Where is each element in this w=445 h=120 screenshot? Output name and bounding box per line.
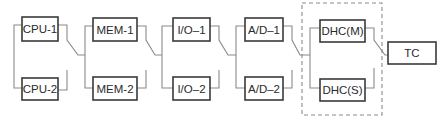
dhc-m-label: DHC(M): [321, 25, 363, 37]
ad-2-box: A/D–2: [245, 77, 283, 100]
redundancy-diagram: CPU-1 CPU-2 MEM-1 MEM-2 I/O–1 I/O–2: [0, 0, 445, 120]
cpu-input-bus: [14, 25, 22, 88]
stage-mem: MEM-1 MEM-2: [85, 18, 162, 100]
ad-2-label: A/D–2: [248, 83, 280, 95]
tc-box: TC: [388, 42, 436, 64]
mem-1-label: MEM-1: [96, 24, 133, 36]
mem1-output-switch: [137, 26, 162, 55]
dhc-m-box: DHC(M): [320, 20, 365, 42]
ad1-output-switch: [283, 26, 310, 55]
mem2-output-stub: [137, 70, 146, 88]
mem-2-label: MEM-2: [96, 83, 133, 95]
ad2-output-stub: [283, 70, 292, 88]
cpu-1-box: CPU-1: [22, 17, 58, 41]
io-2-label: I/O–2: [177, 83, 205, 95]
io2-output-stub: [210, 70, 219, 88]
dhc-s-label: DHC(S): [322, 84, 362, 96]
cpu2-output-stub: [58, 70, 67, 90]
cpu-2-box: CPU-2: [22, 78, 58, 100]
io-2-box: I/O–2: [173, 77, 210, 100]
io1-output-switch: [210, 26, 236, 55]
tc-label: TC: [404, 47, 419, 59]
dhc-input-bus: [310, 28, 320, 88]
cpu-2-label: CPU-2: [23, 83, 58, 95]
stage-io: I/O–1 I/O–2: [162, 18, 236, 100]
dhcs-output-stub: [365, 68, 374, 88]
stage-ad: A/D–1 A/D–2: [236, 18, 310, 100]
dhc-s-box: DHC(S): [320, 79, 365, 101]
io-input-bus: [162, 26, 173, 88]
stage-cpu: CPU-1 CPU-2: [14, 17, 85, 100]
ad-1-label: A/D–1: [248, 24, 280, 36]
cpu-1-label: CPU-1: [23, 23, 58, 35]
cpu1-output-switch: [58, 25, 85, 55]
ad-1-box: A/D–1: [245, 18, 283, 41]
stage-dhc: DHC(M) DHC(S): [310, 20, 388, 101]
ad-input-bus: [236, 26, 245, 88]
mem-input-bus: [85, 26, 93, 88]
mem-2-box: MEM-2: [93, 77, 137, 100]
io-1-box: I/O–1: [173, 18, 210, 41]
dhcm-output-switch: [365, 28, 388, 55]
mem-1-box: MEM-1: [93, 18, 137, 41]
io-1-label: I/O–1: [177, 24, 205, 36]
